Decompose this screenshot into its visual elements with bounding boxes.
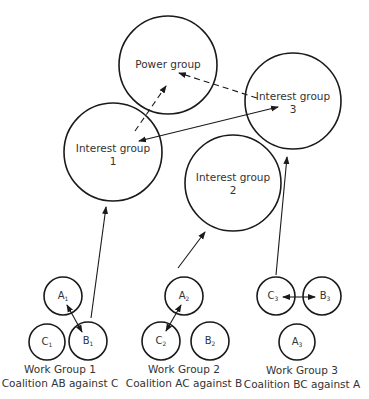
work-group-2-title: Work Group 2 — [126, 362, 242, 376]
interest-group-3-label-line2: 3 — [256, 103, 330, 116]
member-a3-label: A3 — [292, 336, 303, 348]
interest-group-1-label-line1: Interest group — [76, 142, 150, 155]
interest-group-3-label: Interest group 3 — [256, 90, 330, 116]
member-letter: B — [205, 335, 212, 346]
interest-group-2-label-line1: Interest group — [196, 171, 270, 184]
member-a2-label: A2 — [179, 290, 190, 302]
power-group-label: Power group — [135, 58, 201, 71]
work-group-2-caption: Work Group 2 Coalition AC against B — [126, 362, 242, 390]
member-a1-label: A1 — [58, 290, 69, 302]
member-letter: A — [292, 336, 299, 347]
arrow-wg3-to-ig3 — [276, 157, 287, 275]
arrow-wg1-to-ig1 — [91, 207, 106, 318]
member-subscript: 2 — [212, 340, 216, 347]
member-letter: B — [320, 290, 327, 301]
interest-group-1-label: Interest group 1 — [76, 142, 150, 168]
interest-group-1-label-line2: 1 — [76, 155, 150, 168]
interest-group-2-label: Interest group 2 — [196, 171, 270, 197]
member-subscript: 2 — [186, 295, 190, 302]
work-group-1-title: Work Group 1 — [2, 362, 119, 376]
member-letter: B — [83, 335, 90, 346]
work-group-3-caption: Work Group 3 Coalition BC against A — [244, 363, 360, 391]
member-letter: A — [179, 290, 186, 301]
member-subscript: 3 — [299, 341, 303, 348]
work-group-3-coalition: Coalition BC against A — [244, 377, 360, 391]
work-group-3-title: Work Group 3 — [244, 363, 360, 377]
member-subscript: 1 — [65, 295, 69, 302]
member-b2-label: B2 — [205, 335, 216, 347]
interest-group-2-label-line2: 2 — [196, 184, 270, 197]
dashed-arrow-ig1-to-power — [135, 86, 166, 131]
member-subscript: 1 — [49, 341, 53, 348]
member-letter: C — [268, 290, 275, 301]
member-c3-label: C3 — [268, 290, 279, 302]
work-group-1-caption: Work Group 1 Coalition AB against C — [2, 362, 119, 390]
member-b1-label: B1 — [83, 335, 94, 347]
work-group-1-coalition: Coalition AB against C — [2, 376, 119, 390]
member-subscript: 2 — [163, 340, 167, 347]
power-group-label-line1: Power group — [135, 58, 201, 71]
dashed-arrow-ig3-to-power — [179, 73, 257, 98]
member-subscript: 3 — [275, 295, 279, 302]
interest-group-3-label-line1: Interest group — [256, 90, 330, 103]
member-letter: C — [156, 335, 163, 346]
member-c1-label: C1 — [42, 336, 53, 348]
member-c2-label: C2 — [156, 335, 167, 347]
member-subscript: 1 — [90, 340, 94, 347]
work-group-2-coalition: Coalition AC against B — [126, 376, 242, 390]
member-subscript: 3 — [327, 295, 331, 302]
arrow-wg2-to-ig2 — [178, 232, 205, 268]
member-letter: A — [58, 290, 65, 301]
member-letter: C — [42, 336, 49, 347]
member-b3-label: B3 — [320, 290, 331, 302]
